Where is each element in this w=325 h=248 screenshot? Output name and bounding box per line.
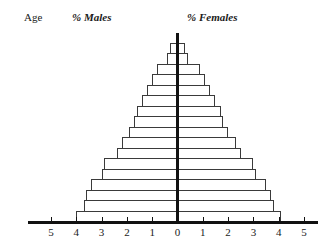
x-axis-tick-label: 5: [43, 227, 59, 238]
x-axis-tick: [152, 217, 153, 221]
x-axis-tick-label: 4: [271, 227, 287, 238]
x-axis-tick: [51, 217, 52, 221]
x-axis-tick: [203, 217, 204, 221]
x-axis-tick: [279, 217, 280, 221]
x-axis-tick-label: 2: [220, 227, 236, 238]
x-axis-tick-label: 4: [68, 227, 84, 238]
x-axis-tick: [76, 217, 77, 221]
x-axis-tick: [127, 217, 128, 221]
plot-area: 54321012345: [0, 0, 325, 248]
x-axis-tick-label: 3: [245, 227, 261, 238]
x-axis-tick-label: 3: [94, 227, 110, 238]
center-axis-line: [176, 33, 179, 224]
x-axis-tick-label: 1: [195, 227, 211, 238]
x-axis-tick: [228, 217, 229, 221]
population-pyramid-figure: Age % Males % Females 80+75–7970–7465–69…: [0, 0, 325, 248]
x-axis-tick: [304, 217, 305, 221]
x-axis-tick-label: 1: [144, 227, 160, 238]
x-axis-baseline: [28, 221, 318, 224]
x-axis-tick-label: 5: [296, 227, 312, 238]
x-axis-tick-label: 2: [119, 227, 135, 238]
x-axis-tick: [253, 217, 254, 221]
x-axis-tick: [102, 217, 103, 221]
x-axis-tick-label: 0: [170, 227, 186, 238]
